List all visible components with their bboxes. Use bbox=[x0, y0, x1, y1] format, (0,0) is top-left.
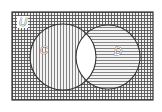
set-c-label: C bbox=[40, 44, 48, 56]
venn-diagram: U C D bbox=[0, 0, 162, 112]
set-d-label: D bbox=[114, 45, 122, 57]
universe-label: U bbox=[19, 16, 27, 28]
